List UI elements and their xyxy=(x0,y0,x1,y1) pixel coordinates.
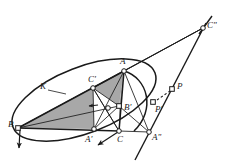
base-C-App xyxy=(119,131,149,132)
point-marker-p xyxy=(170,87,175,92)
arrow-below-C xyxy=(98,132,118,145)
point-label-pp: P' xyxy=(154,104,163,114)
point-marker-app xyxy=(147,130,152,135)
point-marker-cp xyxy=(91,86,96,91)
point-marker-x xyxy=(106,106,111,111)
ray-Cp-Cpp xyxy=(93,28,203,88)
point-label-app: A" xyxy=(151,132,161,142)
point-label-cp: C' xyxy=(88,74,97,84)
point-label-b: B xyxy=(8,119,14,129)
point-label-cpp: C" xyxy=(207,20,217,30)
curve-label-leader xyxy=(48,90,66,94)
point-label-ap: A' xyxy=(84,134,93,144)
point-label-c: C xyxy=(117,134,124,144)
point-marker-ap xyxy=(92,127,97,132)
point-label-a: A xyxy=(119,56,126,66)
geometry-canvas: BACA'B'C'A"C"PP' K xyxy=(0,0,236,164)
geometry-figure: BACA'B'C'A"C"PP' K xyxy=(0,0,236,164)
point-marker-a xyxy=(122,69,127,74)
point-marker-bp xyxy=(117,104,122,109)
point-marker-c xyxy=(117,129,122,134)
point-label-bp: B' xyxy=(124,102,132,112)
point-label-p: P xyxy=(176,81,183,91)
curve-label-group: K xyxy=(39,81,66,94)
point-marker-cpp xyxy=(201,26,206,31)
arrow-at-B xyxy=(19,130,20,148)
curve-label-k: K xyxy=(39,81,47,91)
point-marker-b xyxy=(16,126,21,131)
